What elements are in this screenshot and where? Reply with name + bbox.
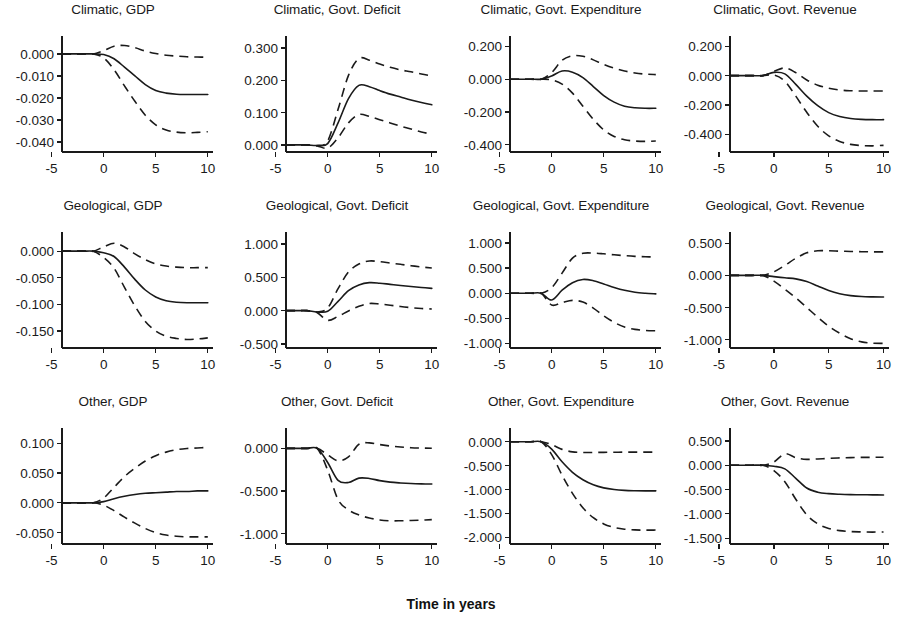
panel-other-govt-revenue: Other, Govt. Revenue0.5000.000-0.500-1.0… bbox=[668, 394, 902, 584]
y-tick-label: 0.000 bbox=[20, 496, 54, 511]
panel-climatic-gdp: Climatic, GDP0.000-0.010-0.020-0.030-0.0… bbox=[0, 2, 226, 192]
x-tick-label: 0 bbox=[100, 357, 108, 372]
series-line-mean bbox=[510, 71, 656, 109]
series-line-mean bbox=[62, 491, 208, 503]
series-line-lower bbox=[286, 114, 432, 148]
x-tick-label: 5 bbox=[376, 553, 384, 568]
x-tick-label: -5 bbox=[270, 553, 282, 568]
series-line-upper bbox=[730, 68, 884, 91]
panel-climatic-govt-expenditure: Climatic, Govt. Expenditure0.2000.000-0.… bbox=[448, 2, 674, 192]
panel-title: Geological, Govt. Deficit bbox=[224, 198, 450, 213]
y-tick-label: 0.300 bbox=[244, 41, 278, 56]
y-tick-label: -1.000 bbox=[464, 336, 502, 351]
x-tick-label: -5 bbox=[494, 161, 506, 176]
x-tick-label: -5 bbox=[713, 357, 725, 372]
x-tick-label: 10 bbox=[648, 357, 663, 372]
y-tick-label: -0.050 bbox=[16, 526, 54, 541]
x-tick-label: 5 bbox=[825, 553, 833, 568]
x-tick-label: -5 bbox=[494, 553, 506, 568]
impulse-response-figure-grid: Climatic, GDP0.000-0.010-0.020-0.030-0.0… bbox=[0, 0, 902, 625]
x-tick-label: 5 bbox=[600, 161, 608, 176]
panel-plot: 0.5000.000-0.500-1.000-1.500-50510 bbox=[668, 410, 902, 584]
y-tick-label: 0.200 bbox=[468, 39, 502, 54]
y-tick-label: -0.500 bbox=[240, 484, 278, 499]
y-tick-label: 0.000 bbox=[20, 244, 54, 259]
panel-plot: 0.000-0.050-0.100-0.150-50510 bbox=[0, 214, 226, 388]
y-tick-label: -1.000 bbox=[684, 507, 722, 522]
y-tick-label: 0.500 bbox=[688, 434, 722, 449]
series-line-lower bbox=[62, 54, 208, 133]
y-tick-label: -0.400 bbox=[464, 138, 502, 153]
x-tick-label: 10 bbox=[876, 553, 891, 568]
series-line-upper bbox=[510, 442, 656, 453]
y-tick-label: 0.000 bbox=[20, 47, 54, 62]
x-tick-label: 0 bbox=[770, 357, 778, 372]
panel-other-govt-deficit: Other, Govt. Deficit0.000-0.500-1.000-50… bbox=[224, 394, 450, 584]
x-tick-label: 10 bbox=[876, 161, 891, 176]
x-tick-label: 0 bbox=[548, 357, 556, 372]
panel-plot: 0.2000.000-0.200-0.400-50510 bbox=[448, 18, 674, 192]
series-line-mean bbox=[62, 251, 208, 303]
y-tick-label: -0.050 bbox=[16, 271, 54, 286]
x-tick-label: 10 bbox=[424, 357, 439, 372]
y-tick-label: -1.000 bbox=[240, 527, 278, 542]
y-tick-label: -0.500 bbox=[464, 311, 502, 326]
panel-title: Other, Govt. Deficit bbox=[224, 394, 450, 409]
x-tick-label: 0 bbox=[548, 553, 556, 568]
panel-title: Climatic, Govt. Expenditure bbox=[448, 2, 674, 17]
series-line-lower bbox=[62, 251, 208, 340]
y-tick-label: 0.100 bbox=[244, 106, 278, 121]
y-tick-label: 0.000 bbox=[244, 138, 278, 153]
panel-title: Other, Govt. Expenditure bbox=[448, 394, 674, 409]
y-tick-label: -1.500 bbox=[684, 531, 722, 546]
panel-plot: 0.000-0.010-0.020-0.030-0.040-50510 bbox=[0, 18, 226, 192]
series-line-mean bbox=[286, 283, 432, 313]
y-tick-label: -1.000 bbox=[684, 333, 722, 348]
panel-other-gdp: Other, GDP0.1000.0500.000-0.050-50510 bbox=[0, 394, 226, 584]
x-tick-label: -5 bbox=[46, 161, 58, 176]
y-tick-label: -0.150 bbox=[16, 324, 54, 339]
y-tick-label: -1.500 bbox=[464, 506, 502, 521]
x-tick-label: 10 bbox=[200, 357, 215, 372]
x-tick-label: 10 bbox=[648, 161, 663, 176]
y-tick-label: 0.000 bbox=[688, 458, 722, 473]
y-tick-label: 0.000 bbox=[468, 72, 502, 87]
y-tick-label: 0.000 bbox=[244, 441, 278, 456]
x-tick-label: 5 bbox=[600, 357, 608, 372]
x-tick-label: 0 bbox=[324, 357, 332, 372]
y-tick-label: -0.500 bbox=[240, 337, 278, 352]
panel-title: Climatic, GDP bbox=[0, 2, 226, 17]
y-tick-label: 0.000 bbox=[688, 268, 722, 283]
panel-plot: 1.0000.5000.000-0.500-1.000-50510 bbox=[448, 214, 674, 388]
x-tick-label: 0 bbox=[100, 161, 108, 176]
y-tick-label: -0.500 bbox=[684, 483, 722, 498]
x-tick-label: 0 bbox=[324, 553, 332, 568]
series-line-lower bbox=[730, 465, 884, 532]
panel-geological-govt-revenue: Geological, Govt. Revenue0.5000.000-0.50… bbox=[668, 198, 902, 388]
series-line-mean bbox=[286, 447, 432, 484]
panel-geological-govt-deficit: Geological, Govt. Deficit1.0000.5000.000… bbox=[224, 198, 450, 388]
y-tick-label: 0.100 bbox=[20, 436, 54, 451]
x-tick-label: -5 bbox=[46, 553, 58, 568]
series-line-lower bbox=[286, 303, 432, 320]
x-tick-label: 5 bbox=[600, 553, 608, 568]
x-tick-label: 0 bbox=[548, 161, 556, 176]
y-tick-label: 0.200 bbox=[688, 39, 722, 54]
y-tick-label: -0.200 bbox=[464, 105, 502, 120]
y-tick-label: 0.500 bbox=[688, 236, 722, 251]
y-tick-label: 0.050 bbox=[20, 466, 54, 481]
x-tick-label: 5 bbox=[152, 161, 160, 176]
panel-plot: 0.1000.0500.000-0.050-50510 bbox=[0, 410, 226, 584]
y-tick-label: -0.500 bbox=[464, 459, 502, 474]
y-tick-label: 0.500 bbox=[468, 261, 502, 276]
x-tick-label: -5 bbox=[494, 357, 506, 372]
x-tick-label: 0 bbox=[100, 553, 108, 568]
series-line-mean bbox=[730, 275, 884, 297]
y-tick-label: -0.030 bbox=[16, 113, 54, 128]
series-line-lower bbox=[510, 441, 656, 530]
x-tick-label: 10 bbox=[876, 357, 891, 372]
panel-plot: 0.3000.2000.1000.000-50510 bbox=[224, 18, 450, 192]
series-line-mean bbox=[62, 54, 208, 95]
series-line-upper bbox=[510, 253, 656, 294]
series-line-lower bbox=[510, 79, 656, 141]
